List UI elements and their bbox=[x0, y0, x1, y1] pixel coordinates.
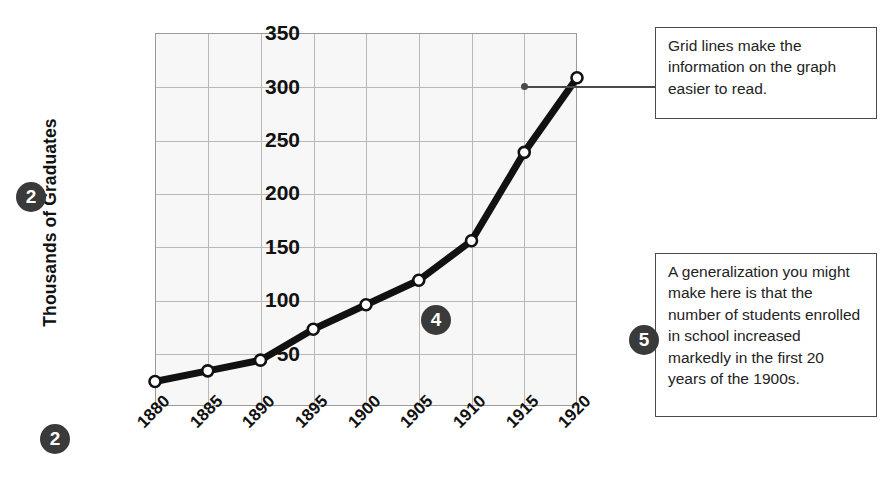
callout-generalization: A generalization you might make here is … bbox=[655, 253, 877, 417]
series-markers bbox=[150, 72, 583, 387]
chart-figure: Thousands of Graduates 2 2 4 5 350 300 2… bbox=[0, 0, 882, 480]
data-point bbox=[308, 324, 319, 335]
callout-leader-line bbox=[524, 86, 655, 88]
series-line-graduates bbox=[155, 33, 577, 406]
badge-note: 5 bbox=[629, 325, 659, 355]
data-point bbox=[202, 365, 213, 376]
data-point bbox=[413, 275, 424, 286]
badge-mid-chart: 4 bbox=[421, 305, 451, 335]
series-polyline bbox=[155, 78, 577, 382]
data-point bbox=[519, 147, 530, 158]
badge-y-axis: 2 bbox=[16, 182, 46, 212]
data-point bbox=[572, 72, 583, 83]
badge-x-axis: 2 bbox=[40, 424, 70, 454]
callout-grid-lines: Grid lines make the information on the g… bbox=[655, 27, 877, 119]
data-point bbox=[361, 299, 372, 310]
callout-leader-dot bbox=[521, 83, 528, 90]
y-axis-title: Thousands of Graduates bbox=[40, 58, 61, 388]
data-point bbox=[466, 235, 477, 246]
data-point bbox=[150, 376, 161, 387]
data-point bbox=[255, 355, 266, 366]
